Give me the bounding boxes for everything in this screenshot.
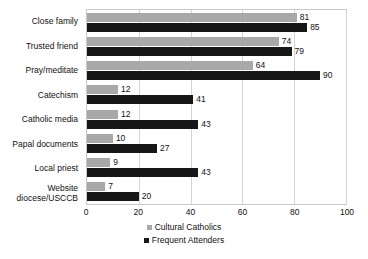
category-label: Papal documents <box>0 132 82 157</box>
value-axis-tick-label: 80 <box>290 205 299 219</box>
bar-value-label: 7 <box>108 182 113 191</box>
bar-group: 43 <box>87 120 346 129</box>
bar-group: 74 <box>87 37 346 46</box>
value-axis-tick-label: 40 <box>186 205 195 219</box>
bar-group: 90 <box>87 71 346 80</box>
bar <box>87 71 320 80</box>
bar <box>87 192 139 201</box>
value-axis: 020406080100 <box>86 205 347 221</box>
category-axis-labels: Close family Trusted friend Pray/meditat… <box>0 9 82 205</box>
bar-group: 9 <box>87 158 346 167</box>
bar-value-label: 90 <box>323 71 332 80</box>
bar <box>87 95 193 104</box>
bar-row: 7479 <box>87 34 346 58</box>
legend-swatch-icon <box>144 238 149 243</box>
bar-rows: 818574796490124112431027943720 <box>87 10 346 204</box>
bar-row: 8185 <box>87 10 346 34</box>
bar <box>87 61 253 70</box>
bar-row: 943 <box>87 156 346 180</box>
bar <box>87 110 118 119</box>
bar-value-label: 81 <box>300 13 309 22</box>
bar-value-label: 85 <box>310 23 319 32</box>
bar-row: 6490 <box>87 59 346 83</box>
category-label: Trusted friend <box>0 34 82 59</box>
bar-row: 1027 <box>87 131 346 155</box>
bar-group: 7 <box>87 182 346 191</box>
bar <box>87 182 105 191</box>
bar <box>87 85 118 94</box>
category-label: Pray/meditate <box>0 58 82 83</box>
bar <box>87 13 297 22</box>
bar-row: 1243 <box>87 107 346 131</box>
category-label-text: Website diocese/USCCB <box>0 183 78 203</box>
bar-group: 64 <box>87 61 346 70</box>
bar-value-label: 12 <box>121 110 130 119</box>
category-label-text: Close family <box>32 16 78 26</box>
bar-group: 12 <box>87 110 346 119</box>
bar-group: 81 <box>87 13 346 22</box>
bar-value-label: 79 <box>295 47 304 56</box>
value-axis-tick-label: 20 <box>133 205 142 219</box>
bar-value-label: 43 <box>201 168 210 177</box>
legend-item-series-a: Cultural Catholics <box>147 222 222 233</box>
value-axis-tick-label: 0 <box>84 205 89 219</box>
bar <box>87 158 110 167</box>
category-label: Local priest <box>0 156 82 181</box>
bar-group: 85 <box>87 23 346 32</box>
bar-value-label: 20 <box>142 192 151 201</box>
bar-value-label: 64 <box>256 61 265 70</box>
legend-label: Cultural Catholics <box>155 222 222 233</box>
bar-value-label: 10 <box>116 134 125 143</box>
bar-group: 10 <box>87 134 346 143</box>
category-label: Catholic media <box>0 107 82 132</box>
category-label-text: Papal documents <box>12 139 78 149</box>
value-axis-tick-label: 100 <box>340 205 354 219</box>
legend-item-series-b: Frequent Attenders <box>144 235 224 246</box>
bar <box>87 144 157 153</box>
bar-value-label: 41 <box>196 95 205 104</box>
bar-chart: Close family Trusted friend Pray/meditat… <box>0 0 368 259</box>
legend-swatch-icon <box>147 225 152 230</box>
gridline <box>346 10 347 204</box>
bar <box>87 37 279 46</box>
bar-row: 1241 <box>87 83 346 107</box>
plot-area: 818574796490124112431027943720 <box>86 9 347 205</box>
bar-value-label: 74 <box>282 37 291 46</box>
value-axis-tick-label: 60 <box>238 205 247 219</box>
category-label-text: Pray/meditate <box>26 65 78 75</box>
category-label-text: Catholic media <box>22 114 78 124</box>
bar-group: 43 <box>87 168 346 177</box>
bar-value-label: 43 <box>201 120 210 129</box>
bar <box>87 168 198 177</box>
category-label-text: Local priest <box>35 163 78 173</box>
bar-group: 12 <box>87 85 346 94</box>
bar-value-label: 9 <box>113 158 118 167</box>
category-label: Catechism <box>0 83 82 108</box>
bar <box>87 47 292 56</box>
category-label: Close family <box>0 9 82 34</box>
bar <box>87 120 198 129</box>
bar-value-label: 12 <box>121 85 130 94</box>
bar-value-label: 27 <box>160 144 169 153</box>
category-label-text: Trusted friend <box>26 41 78 51</box>
legend: Cultural Catholics Frequent Attenders <box>0 222 368 246</box>
bar-group: 79 <box>87 47 346 56</box>
bar-row: 720 <box>87 180 346 204</box>
bar-group: 41 <box>87 95 346 104</box>
category-label-text: Catechism <box>38 90 78 100</box>
bar <box>87 23 307 32</box>
legend-label: Frequent Attenders <box>152 235 224 246</box>
category-label: Website diocese/USCCB <box>0 181 82 206</box>
bar <box>87 134 113 143</box>
bar-group: 27 <box>87 144 346 153</box>
bar-group: 20 <box>87 192 346 201</box>
